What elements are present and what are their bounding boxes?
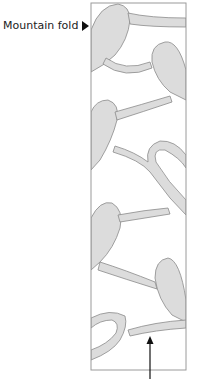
branch-shape	[98, 262, 157, 289]
bird-shape	[155, 258, 186, 322]
branch-shape	[113, 141, 186, 215]
branch-shape	[128, 320, 186, 336]
bird-shape	[152, 42, 186, 100]
bird-shape	[91, 100, 118, 170]
bird-shape	[91, 203, 121, 270]
branch-shape	[103, 58, 152, 73]
branch-shape	[91, 312, 126, 360]
branch-shape	[115, 96, 172, 120]
branch-shape	[128, 13, 186, 27]
bird-pattern-diagram	[0, 0, 199, 383]
branch-shape	[118, 208, 170, 222]
